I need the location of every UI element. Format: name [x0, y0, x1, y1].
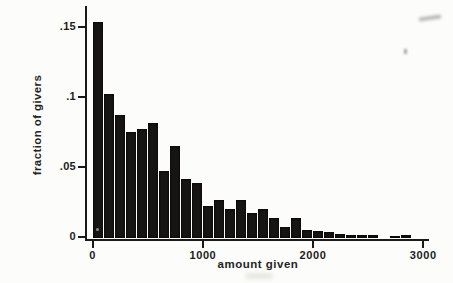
- histogram-bar: [93, 22, 103, 238]
- histogram-bar: [214, 200, 224, 238]
- histogram-bar: [236, 200, 246, 238]
- histogram-bar: [390, 236, 400, 238]
- x-axis-tick: [422, 241, 424, 248]
- histogram-bar: [291, 218, 301, 238]
- histogram-bar: [137, 129, 147, 238]
- x-axis-tick-label: 3000: [393, 249, 453, 261]
- x-axis-tick: [312, 241, 314, 248]
- histogram-bar: [126, 132, 136, 238]
- histogram-bar: [258, 209, 268, 238]
- x-axis-line: [85, 239, 429, 241]
- scan-smudge: [419, 14, 441, 21]
- scan-speck: [404, 49, 407, 54]
- histogram-bar: [203, 206, 213, 238]
- y-axis-line: [85, 6, 87, 241]
- histogram-bar: [104, 94, 114, 238]
- histogram-bar: [247, 213, 257, 238]
- y-axis-tick-label: 0: [44, 230, 76, 242]
- y-axis-tick: [78, 26, 85, 28]
- histogram-bar: [181, 179, 191, 238]
- histogram-bar: [357, 235, 367, 239]
- histogram-bar: [170, 146, 180, 238]
- histogram-bar: [192, 183, 202, 238]
- histogram-bar: [159, 171, 169, 238]
- x-axis-tick: [92, 241, 94, 248]
- x-axis-tick: [202, 241, 204, 248]
- y-axis-tick: [78, 166, 85, 168]
- histogram-figure: fraction of givers .15.1.050010002000300…: [0, 0, 453, 283]
- histogram-bar: [269, 218, 279, 238]
- histogram-bar: [324, 232, 334, 238]
- histogram-bar: [335, 234, 345, 238]
- histogram-bar: [401, 235, 411, 239]
- x-axis-title: amount given: [185, 258, 331, 270]
- histogram-bar: [346, 235, 356, 239]
- histogram-bar: [280, 227, 290, 238]
- y-axis-tick-label: .1: [44, 90, 76, 102]
- x-axis-tick-label: 0: [63, 249, 123, 261]
- y-axis-tick-label: .15: [44, 20, 76, 32]
- y-axis-tick: [78, 96, 85, 98]
- histogram-bar: [225, 209, 235, 238]
- histogram-bar: [302, 230, 312, 238]
- histogram-bar: [148, 123, 158, 238]
- y-axis-tick-label: .05: [44, 160, 76, 172]
- scan-smudge: [246, 274, 272, 278]
- histogram-bar: [115, 115, 125, 238]
- y-axis-tick: [78, 236, 85, 238]
- histogram-bar: [313, 231, 323, 238]
- histogram-bar: [368, 235, 378, 238]
- y-axis-title: fraction of givers: [31, 75, 43, 176]
